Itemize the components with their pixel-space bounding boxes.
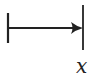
x-label: x xyxy=(76,56,87,76)
arrowhead-icon xyxy=(71,22,83,34)
